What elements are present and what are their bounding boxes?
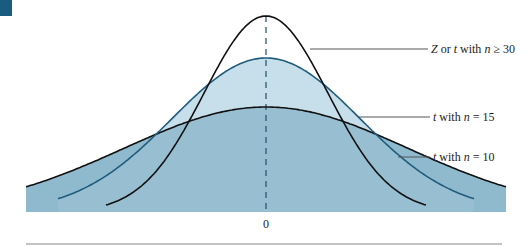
distribution-chart: Z or t with n ≥ 30 t with n = 15 t with … [0, 0, 531, 246]
zero-tick-label: 0 [263, 217, 269, 231]
t10-label: t with n = 10 [433, 150, 494, 164]
z-label: Z or t with n ≥ 30 [431, 42, 515, 56]
t15-label: t with n = 15 [433, 110, 494, 124]
